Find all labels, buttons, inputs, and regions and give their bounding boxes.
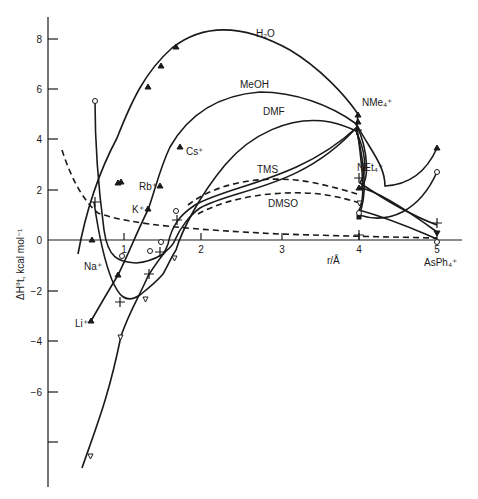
y-tick-6: 6	[36, 84, 42, 95]
y-tick-m6: −6	[31, 387, 43, 398]
label-k: K⁺	[132, 204, 144, 215]
label-na: Na⁺	[84, 261, 102, 272]
label-li: Li⁺	[75, 318, 88, 329]
label-meoh: MeOH	[240, 79, 269, 90]
curves	[78, 30, 437, 468]
label-h2o: H₂O	[256, 28, 275, 39]
y-tick-0: 0	[36, 235, 42, 246]
enthalpy-transfer-chart: 8 6 4 2 0 −2 −4 −6 1 2 3 4 5 r/Å ΔH°t, k…	[0, 0, 478, 499]
x-tick-3: 3	[279, 244, 285, 255]
y-tick-labels: 8 6 4 2 0 −2 −4 −6	[31, 34, 43, 398]
label-dmso: DMSO	[268, 198, 298, 209]
label-cs: Cs⁺	[186, 146, 203, 157]
label-tms: TMS	[257, 164, 278, 175]
label-rb: Rb⁺	[139, 181, 157, 192]
y-tick-8: 8	[36, 34, 42, 45]
x-tick-4: 4	[356, 244, 362, 255]
y-tick-4: 4	[36, 134, 42, 145]
open-markers	[88, 99, 440, 460]
label-dmf: DMF	[263, 106, 285, 117]
series-h2o-line	[78, 30, 437, 254]
y-tick-m4: −4	[31, 336, 43, 347]
x-axis-label: r/Å	[327, 254, 340, 266]
label-net4: NEt₄⁺	[357, 162, 383, 173]
label-nme4: NMe₄⁺	[362, 97, 392, 108]
x-tick-2: 2	[198, 244, 204, 255]
y-axis-label: ΔH°t, kcal mol⁻¹	[15, 228, 26, 300]
x-tick-5: 5	[434, 244, 440, 255]
y-tick-m2: −2	[31, 286, 43, 297]
y-tick-2: 2	[36, 185, 42, 196]
label-asph4: AsPh₄⁺	[424, 257, 457, 268]
